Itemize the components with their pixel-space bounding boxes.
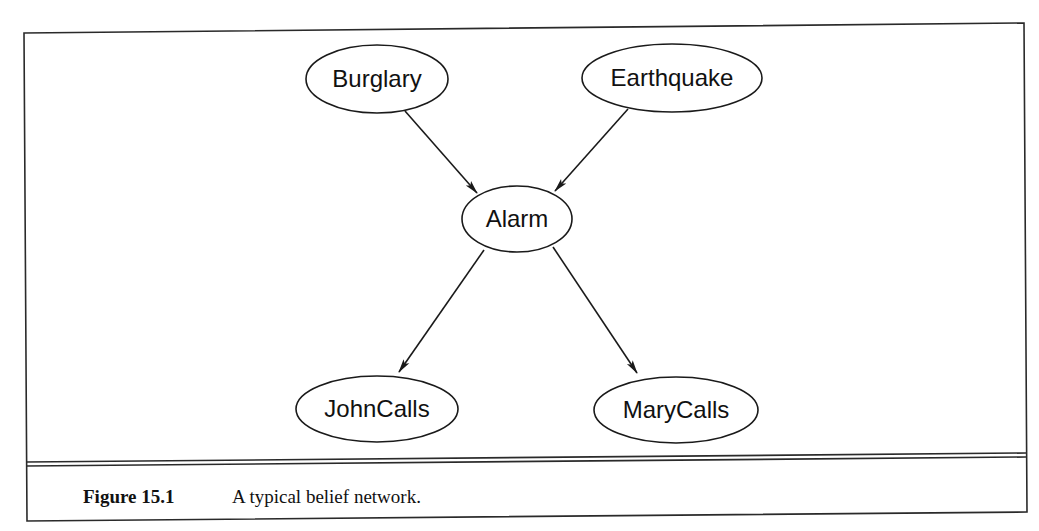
figure-frame	[24, 23, 1027, 521]
edge-alarm-to-marycalls	[553, 247, 637, 373]
figure-caption: A typical belief network.	[232, 486, 421, 507]
node-label: JohnCalls	[324, 395, 429, 422]
nodes-group: BurglaryEarthquakeAlarmJohnCallsMaryCall…	[296, 44, 762, 443]
node-earthquake: Earthquake	[582, 44, 762, 112]
node-label: MaryCalls	[623, 396, 730, 423]
node-label: Burglary	[332, 65, 421, 92]
node-label: Earthquake	[611, 64, 734, 91]
edge-burglary-to-alarm	[405, 111, 477, 193]
node-label: Alarm	[486, 205, 549, 232]
node-alarm: Alarm	[462, 186, 572, 252]
node-marycalls: MaryCalls	[594, 377, 758, 443]
figure: BurglaryEarthquakeAlarmJohnCallsMaryCall…	[0, 0, 1039, 531]
node-johncalls: JohnCalls	[296, 376, 458, 442]
figure-number: Figure 15.1	[83, 486, 174, 507]
node-burglary: Burglary	[306, 45, 448, 113]
edge-alarm-to-johncalls	[399, 250, 484, 372]
caption-divider-bottom	[26, 457, 1026, 466]
edge-earthquake-to-alarm	[555, 109, 628, 191]
caption-divider-top	[26, 453, 1026, 462]
